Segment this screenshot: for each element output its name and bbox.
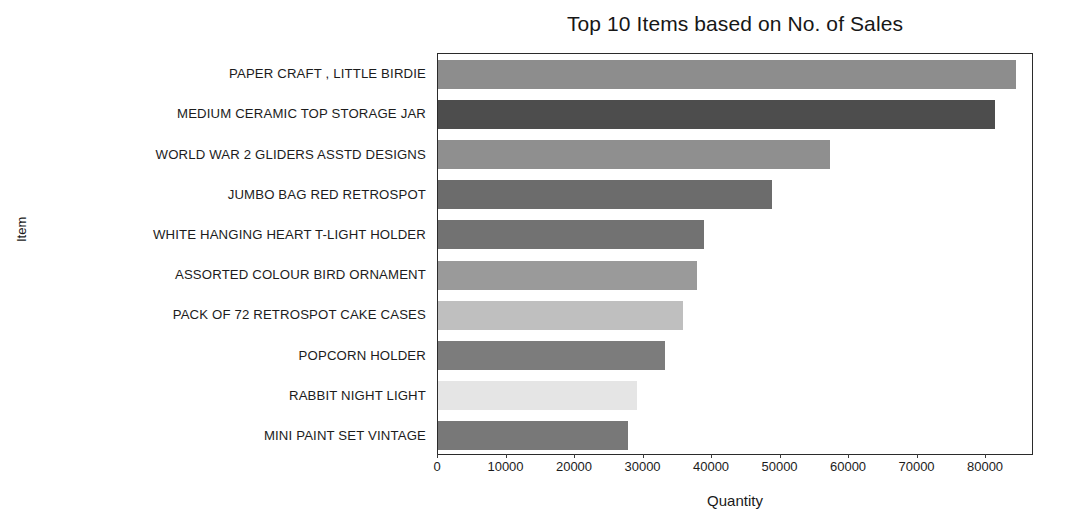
x-tick-mark bbox=[780, 454, 781, 458]
bar bbox=[438, 180, 772, 209]
y-tick-label: MINI PAINT SET VINTAGE bbox=[264, 427, 426, 442]
chart-title: Top 10 Items based on No. of Sales bbox=[437, 12, 1033, 36]
x-tick-mark bbox=[437, 454, 438, 458]
y-tick-label: ASSORTED COLOUR BIRD ORNAMENT bbox=[175, 267, 426, 282]
x-tick-label: 0 bbox=[433, 459, 440, 474]
bar bbox=[438, 220, 704, 249]
y-tick-label: RABBIT NIGHT LIGHT bbox=[289, 387, 426, 402]
y-tick-label: WHITE HANGING HEART T-LIGHT HOLDER bbox=[153, 226, 426, 241]
x-tick-label: 40000 bbox=[693, 459, 729, 474]
plot-area bbox=[437, 53, 1033, 455]
y-tick-label: POPCORN HOLDER bbox=[299, 347, 426, 362]
x-tick-label: 70000 bbox=[898, 459, 934, 474]
y-tick-label: JUMBO BAG RED RETROSPOT bbox=[228, 186, 426, 201]
y-tick-label: PACK OF 72 RETROSPOT CAKE CASES bbox=[173, 307, 426, 322]
x-tick-label: 60000 bbox=[830, 459, 866, 474]
x-tick-mark bbox=[711, 454, 712, 458]
bar bbox=[438, 421, 628, 450]
x-tick-mark bbox=[917, 454, 918, 458]
bar-chart-figure: Top 10 Items based on No. of Sales Item … bbox=[0, 0, 1070, 531]
x-tick-label: 80000 bbox=[967, 459, 1003, 474]
x-tick-mark bbox=[985, 454, 986, 458]
x-tick-mark bbox=[848, 454, 849, 458]
bar bbox=[438, 60, 1016, 89]
x-tick-label: 50000 bbox=[761, 459, 797, 474]
x-tick-label: 20000 bbox=[556, 459, 592, 474]
bar bbox=[438, 100, 995, 129]
y-axis-tick-labels: PAPER CRAFT , LITTLE BIRDIEMEDIUM CERAMI… bbox=[40, 53, 432, 455]
bar bbox=[438, 381, 637, 410]
x-tick-mark bbox=[506, 454, 507, 458]
x-tick-mark bbox=[643, 454, 644, 458]
y-tick-label: WORLD WAR 2 GLIDERS ASSTD DESIGNS bbox=[156, 146, 426, 161]
y-axis-label: Item bbox=[14, 217, 29, 242]
x-tick-label: 30000 bbox=[624, 459, 660, 474]
x-tick-mark bbox=[574, 454, 575, 458]
x-axis-label: Quantity bbox=[437, 492, 1033, 509]
bars-layer bbox=[438, 54, 1032, 454]
x-tick-label: 10000 bbox=[487, 459, 523, 474]
bar bbox=[438, 140, 830, 169]
x-axis-tick-labels: 0100002000030000400005000060000700008000… bbox=[437, 459, 1033, 483]
y-tick-label: PAPER CRAFT , LITTLE BIRDIE bbox=[229, 66, 426, 81]
y-tick-label: MEDIUM CERAMIC TOP STORAGE JAR bbox=[177, 106, 426, 121]
bar bbox=[438, 261, 697, 290]
bar bbox=[438, 301, 683, 330]
bar bbox=[438, 341, 665, 370]
